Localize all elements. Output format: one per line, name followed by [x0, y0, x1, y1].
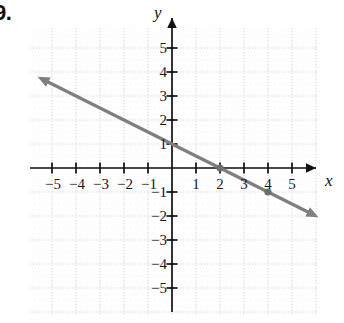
y-tick-label: 3: [143, 89, 167, 104]
x-tick-label: 3: [233, 177, 255, 192]
x-tick-label: 4: [257, 177, 279, 192]
plotted-line: [38, 77, 319, 217]
x-tick-label: −3: [90, 177, 112, 192]
y-tick-label: −5: [143, 281, 167, 296]
x-axis-arrowhead: [306, 163, 316, 173]
x-tick-label: 2: [209, 177, 231, 192]
minor-grid: [30, 28, 318, 315]
y-tick-label: 1: [143, 137, 167, 152]
x-tick-label: 1: [185, 177, 207, 192]
figure-page: 9. −5−4−3−2−11234554321−1−2−3−: [0, 0, 344, 323]
x-tick-label: −2: [114, 177, 136, 192]
y-tick-label: 2: [143, 113, 167, 128]
y-tick-label: −1: [143, 185, 167, 200]
y-tick-label: −3: [143, 233, 167, 248]
data-point: [216, 164, 223, 171]
x-tick-label: 5: [281, 177, 303, 192]
y-axis-arrowhead: [167, 18, 177, 28]
unit-grid: [30, 28, 318, 315]
x-tick-label: −5: [42, 177, 64, 192]
y-tick-label: −4: [143, 257, 167, 272]
y-tick-label: −2: [143, 209, 167, 224]
x-tick-label: −4: [66, 177, 88, 192]
line-segment: [44, 80, 313, 214]
x-axis-label: x: [325, 172, 333, 189]
axes: [30, 18, 316, 312]
y-tick-label: 5: [143, 41, 167, 56]
y-axis-label: y: [154, 4, 162, 21]
coordinate-plane: [0, 0, 344, 323]
y-tick-label: 4: [143, 65, 167, 80]
